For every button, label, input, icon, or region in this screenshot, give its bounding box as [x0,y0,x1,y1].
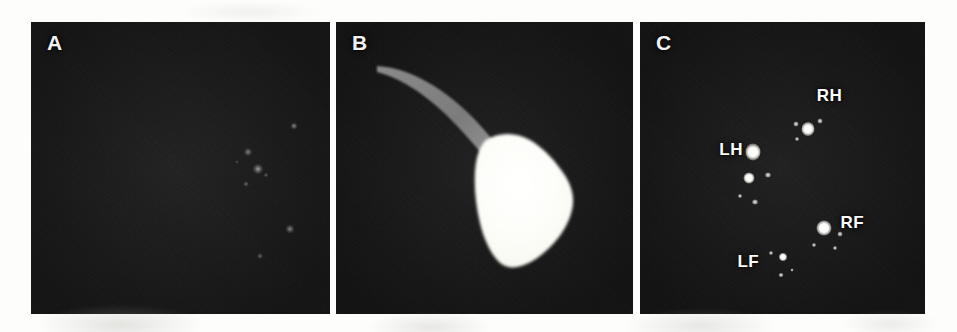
focus-6 [285,224,294,234]
label-rf: RF [840,214,864,231]
panel-b: B [336,22,633,314]
panel-c-letter: C [656,32,672,53]
label-lf: LF [737,253,759,270]
figure-container: A [0,0,957,332]
panel-b-letter: B [352,32,368,53]
panel-a-letter: A [47,32,63,53]
focus-7 [257,252,263,259]
focus-1 [243,147,252,156]
specimen-shape [336,22,633,314]
focus-2 [252,164,263,175]
focus-3 [243,181,249,187]
label-rh: RH [817,87,843,104]
panel-c: RHLHRFLF C [640,22,925,314]
specimen-body [475,134,573,267]
panel-a-foci-layer [31,22,330,314]
panel-c-label-layer: RHLHRFLF [640,22,925,314]
focus-5 [291,122,298,130]
label-lh: LH [719,141,743,158]
focus-4 [263,173,268,178]
focus-8 [235,160,239,164]
panel-a: A [31,22,330,314]
